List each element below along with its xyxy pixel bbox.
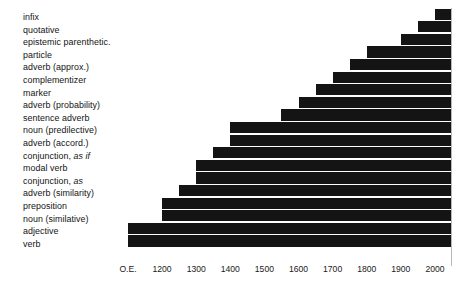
bar	[333, 72, 452, 83]
category-label: quotative	[23, 25, 133, 35]
bar-row	[128, 210, 452, 223]
bar	[316, 84, 452, 95]
category-label: infix	[23, 12, 133, 22]
bar	[401, 34, 452, 45]
bar-row	[128, 33, 452, 46]
plot-area	[128, 8, 452, 262]
x-tick-label: 1800	[357, 264, 376, 275]
bar	[162, 210, 452, 221]
x-tick-label: O.E.	[119, 264, 136, 275]
bar-row	[128, 147, 452, 160]
x-axis: O.E.120013001400150016001700180019002000	[0, 264, 470, 284]
x-tick-label: 1600	[289, 264, 308, 275]
bar-row	[128, 159, 452, 172]
x-tick-label: 1300	[187, 264, 206, 275]
bar-row	[128, 172, 452, 185]
bar-row	[128, 184, 452, 197]
bar	[230, 122, 452, 133]
bar	[230, 135, 452, 146]
bar	[128, 223, 452, 234]
bar	[299, 97, 452, 108]
bar	[196, 172, 452, 183]
x-tick-label: 1500	[255, 264, 274, 275]
x-tick-label: 1200	[153, 264, 172, 275]
bar	[367, 46, 452, 57]
category-label: modal verb	[23, 163, 133, 173]
category-label: verb	[23, 239, 133, 249]
x-tick-label: 2000	[425, 264, 444, 275]
category-label: epistemic parenthetic.	[23, 37, 133, 47]
category-label: marker	[23, 88, 133, 98]
category-label: adjective	[23, 226, 133, 236]
category-label: complementizer	[23, 75, 133, 85]
category-label: particle	[23, 50, 133, 60]
x-tick-label: 1900	[391, 264, 410, 275]
bar-row	[128, 71, 452, 84]
category-label: adverb (approx.)	[23, 62, 133, 72]
bar	[128, 235, 452, 246]
bar	[162, 198, 452, 209]
bar-row	[128, 109, 452, 122]
bar	[281, 109, 452, 120]
bar-row	[128, 235, 452, 248]
axis-right-spine	[451, 8, 452, 266]
bar	[418, 21, 452, 32]
category-label: conjunction, as	[23, 176, 133, 186]
bar-row	[128, 46, 452, 59]
bar	[213, 147, 452, 158]
bar-row	[128, 121, 452, 134]
bar-row	[128, 21, 452, 34]
bar-row	[128, 197, 452, 210]
bar-chart: infixquotativeepistemic parenthetic.part…	[0, 0, 470, 295]
category-label: preposition	[23, 201, 133, 211]
category-label: sentence adverb	[23, 113, 133, 123]
bar-row	[128, 58, 452, 71]
category-label: adverb (accord.)	[23, 138, 133, 148]
category-label: noun (predilective)	[23, 125, 133, 135]
category-label: adverb (similarity)	[23, 188, 133, 198]
bar-row	[128, 96, 452, 109]
bar	[350, 59, 452, 70]
x-tick-label: 1400	[221, 264, 240, 275]
bar	[179, 185, 452, 196]
category-label: adverb (probability)	[23, 100, 133, 110]
x-tick-label: 1700	[323, 264, 342, 275]
bar-row	[128, 222, 452, 235]
category-label: noun (similative)	[23, 214, 133, 224]
category-label: conjunction, as if	[23, 151, 133, 161]
bar	[196, 160, 452, 171]
bar-row	[128, 84, 452, 97]
category-axis-labels: infixquotativeepistemic parenthetic.part…	[0, 0, 128, 262]
bar	[435, 9, 452, 20]
bar-row	[128, 8, 452, 21]
bar-row	[128, 134, 452, 147]
